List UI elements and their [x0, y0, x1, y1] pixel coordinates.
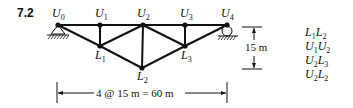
member-L1-U2 — [100, 25, 143, 46]
node-U3 — [182, 22, 187, 27]
height-label: 15 m — [245, 41, 268, 53]
label-U4: U4 — [221, 6, 234, 22]
member-list-item: U2L2 — [305, 67, 328, 83]
truss-members — [58, 25, 227, 68]
member-L2-L3 — [142, 46, 185, 68]
node-U0 — [55, 22, 60, 27]
problem-number: 7.2 — [17, 6, 34, 20]
member-U2-L2 — [142, 25, 143, 68]
label-U1: U1 — [95, 6, 108, 22]
label-L1: L1 — [94, 48, 106, 64]
span-dimension: 4 @ 15 m = 60 m — [57, 82, 227, 103]
truss-diagram: 7.2 U0 U1 U2 U3 U4 L1 L2 L3 — [0, 0, 353, 108]
member-L1-L2 — [100, 46, 142, 68]
node-U2 — [140, 22, 145, 27]
node-U1 — [97, 22, 102, 27]
label-U0: U0 — [52, 6, 65, 22]
label-U2: U2 — [137, 6, 150, 22]
node-U4 — [224, 22, 229, 27]
label-L2: L2 — [136, 69, 148, 85]
height-dimension: 15 m — [242, 27, 268, 69]
member-U2-L3 — [143, 25, 185, 46]
label-L3: L3 — [180, 48, 192, 64]
span-label: 4 @ 15 m = 60 m — [96, 87, 174, 99]
member-list: L1L2 U1U2 U2L3 U2L2 — [304, 25, 330, 83]
label-U3: U3 — [180, 6, 193, 22]
